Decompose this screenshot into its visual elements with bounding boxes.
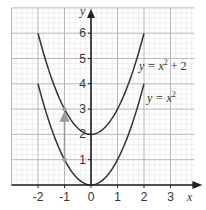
- label-x-squared: y = x2: [146, 90, 176, 105]
- x-tick-label: 2: [141, 190, 148, 204]
- x-tick-label: 1: [114, 190, 121, 204]
- x-axis-arrow-icon: [192, 181, 202, 189]
- x-axis-label: x: [186, 190, 193, 204]
- y-tick-label: 3: [79, 102, 86, 116]
- x-tick-label: -1: [59, 190, 70, 204]
- x-tick-label: -2: [33, 190, 44, 204]
- graph-plot: -2-10123123456 y x y = x2 + 2 y = x2: [0, 0, 206, 210]
- y-tick-label: 1: [79, 153, 86, 167]
- point-marker: [62, 158, 66, 162]
- label-x-squared-plus-2: y = x2 + 2: [138, 58, 187, 73]
- y-tick-label: 6: [79, 26, 86, 40]
- eq1-tail: + 2: [168, 59, 187, 73]
- x-tick-label: 3: [167, 190, 174, 204]
- x-tick-label: 0: [88, 190, 95, 204]
- y-axis-label: y: [79, 4, 86, 18]
- eq1-main: y = x: [138, 59, 164, 73]
- y-tick-label: 4: [79, 77, 86, 91]
- y-tick-label: 2: [79, 127, 86, 141]
- point-marker: [62, 107, 66, 111]
- eq2-exp: 2: [172, 90, 176, 99]
- eq2-main: y = x: [146, 91, 172, 105]
- y-tick-label: 5: [79, 52, 86, 66]
- y-axis-arrow-icon: [87, 9, 95, 18]
